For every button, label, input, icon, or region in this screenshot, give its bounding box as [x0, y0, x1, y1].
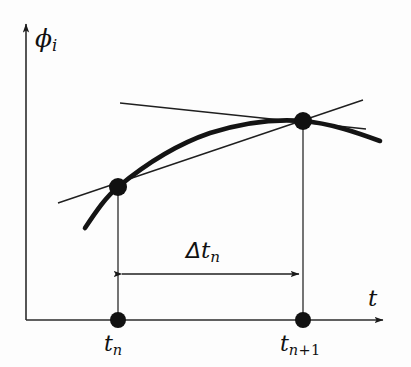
tick-label-tn1-subscript: n+1	[289, 342, 321, 358]
tick-label-tn1-sub-op: +	[298, 342, 310, 358]
tick-label-tn1: tn+1	[280, 333, 320, 357]
secant-line	[58, 100, 363, 203]
interval-subscript: n	[210, 248, 220, 266]
tick-label-tn-subscript: n	[113, 342, 123, 358]
delta-symbol: Δ	[186, 238, 201, 263]
time-step-diagram: ϕi t Δtn tn tn+1	[0, 0, 411, 367]
tick-label-tn1-sub-offset: 1	[311, 342, 321, 358]
solution-curve	[85, 120, 380, 228]
x-axis-label-symbol: t	[368, 285, 377, 311]
diagram-canvas	[0, 0, 411, 367]
interval-label: Δtn	[186, 239, 220, 265]
node-tn1	[294, 112, 312, 130]
interval-variable: t	[201, 237, 210, 263]
tick-label-tn-variable: t	[104, 331, 113, 356]
y-axis-label-subscript: i	[52, 36, 58, 55]
y-axis-label-symbol: ϕ	[35, 24, 52, 53]
x-axis-label: t	[368, 287, 377, 310]
tick-label-tn1-variable: t	[280, 331, 289, 356]
node-tn	[109, 178, 127, 196]
tick-label-tn: tn	[104, 333, 122, 357]
axis-dot-tn1	[295, 312, 311, 328]
y-axis-label: ϕi	[35, 26, 58, 55]
axis-dot-tn	[110, 312, 126, 328]
